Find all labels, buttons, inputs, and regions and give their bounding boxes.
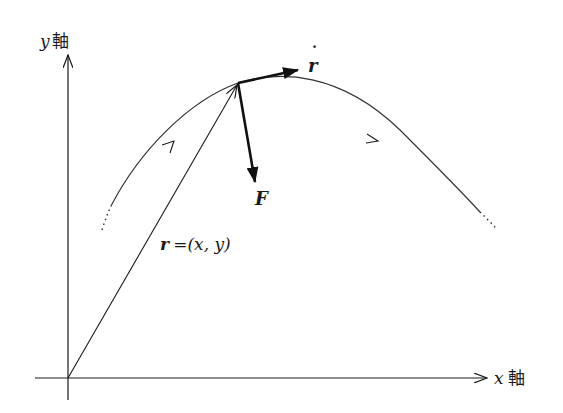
position-vector-components: =(x, y) (173, 234, 231, 254)
trajectory-curve (111, 76, 480, 212)
trajectory-dotted-end (480, 212, 496, 228)
curve-direction-arrow-right (366, 134, 378, 143)
y-axis-label: 軸 (52, 31, 69, 51)
position-vector-label: r =(x, y) (160, 234, 231, 254)
curve-direction-arrow-left (162, 141, 174, 153)
position-vector (68, 85, 237, 378)
trajectory-dotted-start (102, 206, 111, 230)
x-axis-label: 軸 (508, 368, 525, 388)
x-axis-var-label: x (494, 368, 504, 388)
trajectory-diagram: y 軸 x 軸 r ˙ F r =(x, y) (0, 0, 563, 413)
force-label: F (254, 188, 269, 209)
y-axis-var-label: y (39, 31, 50, 51)
position-vector-symbol: r (160, 234, 170, 254)
force-vector (238, 83, 255, 182)
velocity-label-dot: ˙ (310, 43, 319, 64)
